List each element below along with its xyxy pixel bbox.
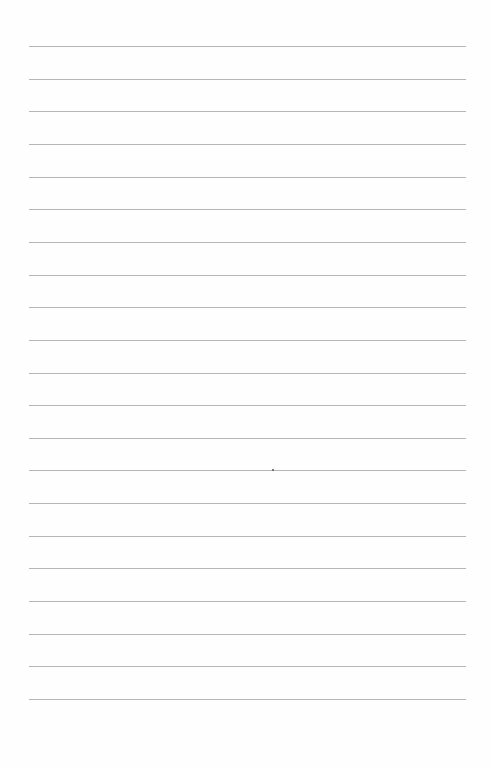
ruled-line [29,111,466,112]
ruled-line [29,601,466,602]
ruled-line [29,177,466,178]
ruled-line [29,340,466,341]
ruled-line [29,438,466,439]
ruled-line [29,470,466,471]
ruled-line [29,536,466,537]
ruled-line [29,275,466,276]
ink-speck [272,469,274,471]
ruled-line [29,46,466,47]
ruled-line [29,307,466,308]
ruled-line [29,144,466,145]
ruled-line [29,373,466,374]
ruled-line [29,405,466,406]
ruled-line [29,503,466,504]
ruled-line [29,79,466,80]
ruled-line [29,242,466,243]
ruled-line [29,634,466,635]
ruled-line [29,666,466,667]
ruled-line [29,209,466,210]
ruled-line [29,568,466,569]
lined-paper-page [0,0,491,768]
ruled-line [29,699,466,700]
